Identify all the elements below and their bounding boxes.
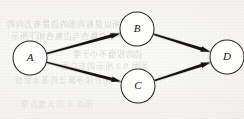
node-layer: ABCD <box>13 12 244 103</box>
graph-node-a: A <box>13 41 47 75</box>
graph-node-b: B <box>120 12 154 46</box>
graph-node-d: D <box>210 40 244 74</box>
graph-edge-c-to-d <box>154 62 210 81</box>
graph-edge-a-to-b <box>47 33 120 54</box>
directed-graph: ABCD <box>0 0 244 119</box>
node-label-d: D <box>222 50 231 62</box>
figure-canvas: 所以说有向图的边是有方向的 其中顶点集合与边集合如下所示 边的权值不小于零 如图… <box>0 0 244 119</box>
node-label-c: C <box>134 79 142 91</box>
node-label-a: A <box>26 51 34 63</box>
node-label-b: B <box>134 22 141 34</box>
graph-edge-b-to-d <box>153 33 210 51</box>
graph-node-c: C <box>121 69 155 103</box>
graph-edge-a-to-c <box>47 62 121 82</box>
